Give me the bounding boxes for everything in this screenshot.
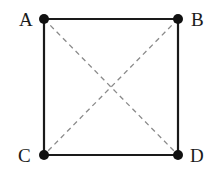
vertex-d	[173, 150, 183, 160]
vertex-b	[173, 14, 183, 24]
label-d: D	[190, 145, 204, 166]
vertex-a	[39, 14, 49, 24]
square-diagram: A B C D	[0, 0, 213, 170]
vertex-c	[39, 150, 49, 160]
label-b: B	[191, 9, 204, 30]
label-c: C	[18, 145, 31, 166]
label-a: A	[19, 9, 33, 30]
